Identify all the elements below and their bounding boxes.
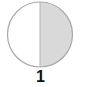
half-shaded-circle-icon — [0, 0, 85, 70]
figure-label: 1 — [0, 68, 81, 86]
circle-shaded-half — [40, 2, 73, 67]
fraction-figure: 1 — [0, 0, 85, 87]
